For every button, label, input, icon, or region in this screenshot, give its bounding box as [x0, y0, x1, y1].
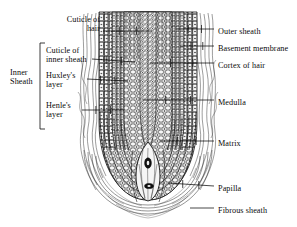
label-huxleys-layer: Huxley's	[46, 71, 75, 80]
label-fibrous-sheath: Fibrous sheath	[218, 206, 267, 215]
label-cuticle-of-inner-sheath: Cuticle of	[46, 46, 80, 55]
label-outer-sheath: Outer sheath	[218, 27, 261, 36]
label-henles-layer-2: layer	[46, 110, 63, 119]
label-cortex-of-hair: Cortex of hair	[218, 61, 265, 70]
label-cuticle-of-hair: Cuticle of	[67, 15, 101, 24]
label-papilla: Papilla	[218, 184, 242, 193]
label-huxleys-layer-2: layer	[46, 80, 63, 89]
hair-follicle-figure: Cuticle ofhairCuticle ofinner sheathHuxl…	[0, 0, 297, 227]
label-inner-sheath-2: Sheath	[10, 77, 33, 86]
label-henles-layer: Henle's	[46, 101, 71, 110]
label-medulla: Medulla	[218, 98, 246, 107]
follicle-body	[99, 12, 197, 202]
label-inner-sheath: Inner	[10, 68, 28, 77]
label-matrix: Matrix	[218, 139, 241, 148]
label-cuticle-of-inner-sheath-2: inner sheath	[46, 55, 87, 64]
label-basement-membrane: Basement membrane	[218, 44, 289, 53]
label-cuticle-of-hair-2: hair	[87, 24, 100, 33]
